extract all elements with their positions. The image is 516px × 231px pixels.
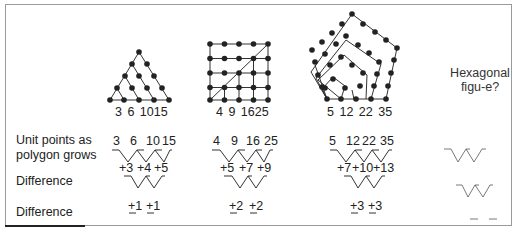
row-label-unit-points: Unit points as polygon grows xyxy=(16,133,97,163)
tri-diff1-1: +3 xyxy=(119,161,133,176)
pentagonal-base-labels: 5 12 22 35 xyxy=(327,105,392,120)
row-label-difference-1: Difference xyxy=(16,174,73,189)
row-label-unit-points-line1: Unit points as xyxy=(16,133,97,148)
sq-point-1: 4 xyxy=(213,134,220,149)
pent-point-1: 5 xyxy=(329,134,336,149)
hexagonal-question-line2: figu-e? xyxy=(448,80,512,94)
hexagonal-question: Hexagonal figu-e? xyxy=(448,66,512,94)
sq-point-4: 25 xyxy=(264,134,278,149)
sq-point-2: 9 xyxy=(231,134,238,149)
hexagonal-placeholder-connectors xyxy=(444,149,497,219)
tri-diff1-3: +5 xyxy=(154,161,168,176)
pent-diff1-1: +7 xyxy=(337,161,351,176)
tri-diff2-1: +1 xyxy=(128,199,142,214)
hexagonal-question-line1: Hexagonal xyxy=(448,66,512,80)
pent-diff1-2: +10 xyxy=(352,161,373,176)
pent-point-3: 22 xyxy=(362,134,376,149)
tri-point-3: 10 xyxy=(146,134,160,149)
sq-diff2-2: +2 xyxy=(249,199,263,214)
row-label-difference-2: Difference xyxy=(16,205,73,220)
triangular-base-labels: 3 6 1015 xyxy=(115,105,168,120)
tri-point-4: 15 xyxy=(162,134,176,149)
tri-diff1-2: +4 xyxy=(137,161,151,176)
row-label-unit-points-line2: polygon grows xyxy=(16,148,97,163)
sq-diff2-1: +2 xyxy=(229,199,243,214)
pent-point-2: 12 xyxy=(346,134,360,149)
square-base-labels: 4 9 1625 xyxy=(216,105,269,120)
tri-diff2-2: +1 xyxy=(146,199,160,214)
sq-point-3: 16 xyxy=(246,134,260,149)
pent-diff1-3: +13 xyxy=(373,161,394,176)
sq-diff1-1: +5 xyxy=(220,161,234,176)
sq-diff1-3: +9 xyxy=(257,161,271,176)
sq-diff1-2: +7 xyxy=(239,161,253,176)
tri-point-1: 3 xyxy=(113,134,120,149)
pent-diff2-1: +3 xyxy=(350,199,364,214)
pent-diff2-2: +3 xyxy=(368,199,382,214)
tri-point-2: 6 xyxy=(130,134,137,149)
pent-point-4: 35 xyxy=(380,134,394,149)
